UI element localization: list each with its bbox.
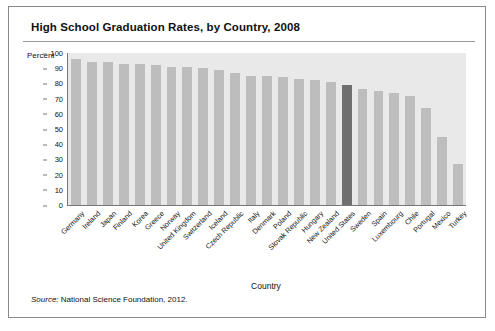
bar	[453, 164, 463, 205]
bar-column	[179, 53, 195, 205]
bar-column	[371, 53, 387, 205]
bar-column	[132, 53, 148, 205]
y-tick-mark	[43, 68, 47, 69]
bar	[246, 76, 256, 205]
bar	[182, 67, 192, 205]
y-tick-mark	[43, 144, 47, 145]
bar	[358, 89, 368, 205]
bar	[214, 70, 224, 205]
title-divider	[23, 41, 475, 42]
bar-column	[164, 53, 180, 205]
bar	[87, 62, 97, 205]
bar-column	[211, 53, 227, 205]
bar-column	[402, 53, 418, 205]
bar	[310, 80, 320, 205]
y-tick-mark	[43, 129, 47, 130]
y-axis-ticks: 0102030405060708090100	[45, 53, 63, 205]
y-tick-mark	[43, 83, 47, 84]
y-tick-mark	[43, 205, 47, 206]
x-axis-label: Country	[67, 281, 465, 291]
bar-column	[195, 53, 211, 205]
bar-column	[339, 53, 355, 205]
y-tick-label: 90	[47, 64, 63, 73]
bar-column	[243, 53, 259, 205]
bar-column	[307, 53, 323, 205]
bar	[262, 76, 272, 205]
bar	[167, 67, 177, 205]
bar	[389, 93, 399, 205]
y-tick-label: 40	[47, 140, 63, 149]
y-tick-label: 80	[47, 79, 63, 88]
bar-column	[68, 53, 84, 205]
bar-column	[386, 53, 402, 205]
plot-area	[67, 53, 466, 206]
y-tick-label: 50	[47, 125, 63, 134]
bar-column	[100, 53, 116, 205]
y-tick-mark	[43, 190, 47, 191]
bar-column	[355, 53, 371, 205]
y-tick-label: 60	[47, 109, 63, 118]
bar	[278, 77, 288, 205]
y-tick-mark	[43, 99, 47, 100]
y-tick-mark	[43, 159, 47, 160]
bar	[151, 65, 161, 205]
bar	[135, 64, 145, 205]
x-axis-ticklabels: GermanyIrelandJapanFinlandKoreaGreeceNor…	[67, 207, 465, 281]
bar	[198, 68, 208, 205]
bar-column	[148, 53, 164, 205]
y-tick-label: 20	[47, 170, 63, 179]
bar	[119, 64, 129, 205]
y-tick-mark	[43, 175, 47, 176]
bar	[326, 82, 336, 205]
page-title: High School Graduation Rates, by Country…	[31, 21, 300, 33]
screenshot-root: High School Graduation Rates, by Country…	[0, 0, 495, 331]
bar	[437, 137, 447, 205]
source-prefix: Source:	[31, 295, 59, 304]
chart-card: High School Graduation Rates, by Country…	[8, 6, 486, 318]
source-text: National Science Foundation, 2012.	[59, 295, 188, 304]
y-tick-label: 10	[47, 185, 63, 194]
bar-column	[259, 53, 275, 205]
bar-column	[291, 53, 307, 205]
bar-column	[227, 53, 243, 205]
bar	[405, 96, 415, 205]
bar-column	[418, 53, 434, 205]
bar	[230, 73, 240, 205]
bar	[71, 59, 81, 205]
y-tick-label: 30	[47, 155, 63, 164]
bar-column	[434, 53, 450, 205]
bar-column	[84, 53, 100, 205]
y-tick-label: 70	[47, 94, 63, 103]
y-tick-mark	[43, 53, 47, 54]
y-tick-mark	[43, 114, 47, 115]
bar-column	[275, 53, 291, 205]
bar-series	[68, 53, 466, 205]
bar	[294, 79, 304, 205]
bar	[374, 91, 384, 205]
bar-column	[323, 53, 339, 205]
bar-column	[450, 53, 466, 205]
bar	[421, 108, 431, 205]
bar-column	[116, 53, 132, 205]
bar	[103, 62, 113, 205]
bar	[342, 85, 352, 205]
source-note: Source: National Science Foundation, 201…	[31, 295, 188, 304]
y-tick-label: 100	[47, 49, 63, 58]
y-tick-label: 0	[47, 201, 63, 210]
